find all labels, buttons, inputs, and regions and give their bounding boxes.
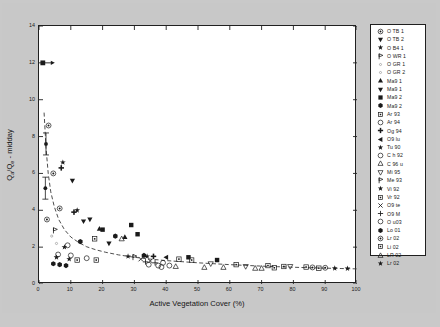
y-tick-label: 6	[24, 169, 35, 175]
annotation-errorbar	[42, 177, 48, 199]
legend-label: O WR 1	[387, 52, 406, 60]
series-Ch92	[56, 252, 90, 261]
legend-label: Mi 95	[387, 168, 400, 176]
legend-label: Ar 94	[387, 118, 400, 126]
y-tick-label: 4	[24, 206, 35, 212]
series-Ar93	[92, 237, 270, 268]
legend-label: Ma9 1	[387, 85, 402, 93]
y-tick-label: 10	[24, 96, 35, 102]
legend-label: Lr 02	[387, 259, 399, 267]
legend-label: O B4 1	[387, 44, 404, 52]
x-tick-label: 80	[289, 286, 295, 292]
x-tick-label: 50	[194, 286, 200, 292]
x-tick-label: 0	[37, 286, 40, 292]
legend-label: O9 M	[387, 210, 400, 218]
y-tick-label: 14	[24, 22, 35, 28]
x-tick-label: 60	[226, 286, 232, 292]
series-OGR1	[51, 235, 53, 237]
legend-label: Lo 01	[387, 226, 400, 234]
legend-label: Og 94	[387, 127, 402, 135]
y-tick-label: 2	[24, 243, 35, 249]
annotation-arrow	[40, 60, 54, 65]
scatter-svg	[39, 26, 357, 284]
legend-label: Vr 92	[387, 193, 400, 201]
x-tick-label: 40	[162, 286, 168, 292]
legend-label: O u03	[387, 218, 402, 226]
y-axis-title: Qa/Qe - midday	[5, 129, 16, 180]
y-tick-label: 0	[24, 280, 35, 286]
legend-marker-star-small-icon	[373, 259, 387, 268]
legend-label: Vi 92	[387, 185, 399, 193]
legend-label: O GR 1	[387, 60, 405, 68]
legend-label: O TB 1	[387, 27, 404, 35]
legend-label: Lr 02	[387, 234, 399, 242]
series-Ma92a	[100, 223, 219, 262]
x-tick-label: 70	[258, 286, 264, 292]
x-axis-title: Active Vegetation Cover (%)	[150, 299, 245, 308]
series-O9lu	[163, 255, 168, 260]
y-tick-label: 12	[24, 59, 35, 65]
x-tick-label: 30	[130, 286, 136, 292]
legend-label: Tu 90	[387, 143, 401, 151]
plot-area	[38, 25, 356, 283]
series-OTB2	[70, 179, 86, 224]
figure-canvas: 010203040506070809010002468101214 Active…	[2, 3, 436, 313]
legend-label: O9 lu	[387, 135, 400, 143]
y-tick-label: 8	[24, 133, 35, 139]
series-Ma92b	[78, 233, 146, 258]
legend-label: C h 92	[387, 151, 403, 159]
legend-label: LR 02	[387, 251, 401, 259]
legend-label: Ma9 2	[387, 102, 402, 110]
legend-label: O TB 2	[387, 35, 404, 43]
series-Tu90	[62, 244, 150, 259]
series-OWR1	[53, 228, 57, 234]
legend-label: Me 93	[387, 176, 402, 184]
x-tick-label: 100	[352, 286, 361, 292]
series-C96u	[119, 236, 258, 270]
series-OTB1	[44, 123, 62, 222]
x-tick-label: 10	[67, 286, 73, 292]
legend-label: Ma9 1	[387, 77, 402, 85]
legend-label: Li 02	[387, 243, 399, 251]
series-Ma91b	[87, 218, 111, 247]
legend-label: O9 te	[387, 201, 400, 209]
legend-label: Ma9 2	[387, 93, 402, 101]
legend-label: O GR 2	[387, 68, 405, 76]
series-OGR2	[55, 242, 57, 244]
x-tick-label: 20	[99, 286, 105, 292]
x-tick-label: 90	[321, 286, 327, 292]
legend-item: Lr 02	[373, 259, 424, 267]
annotation-errorbar	[43, 133, 49, 155]
legend-label: C 96 u	[387, 160, 403, 168]
figure-container: 010203040506070809010002468101214 Active…	[0, 0, 440, 327]
legend-label: Ar 93	[387, 110, 400, 118]
series-Lo01	[51, 261, 68, 268]
legend-box: O TB 1O TB 2O B4 1O WR 1O GR 1O GR 2Ma9 …	[370, 24, 426, 256]
